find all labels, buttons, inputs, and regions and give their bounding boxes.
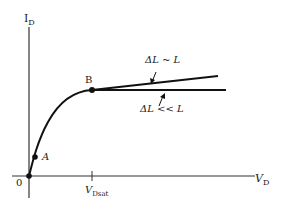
point-a-label: A [41, 151, 49, 162]
point-b [89, 87, 95, 93]
upper-saturation-line [92, 76, 218, 90]
point-a [32, 154, 38, 160]
upper-curve-label: ΔL ~ L [144, 54, 181, 65]
origin-label: 0 [16, 177, 22, 188]
lower-curve-label: ΔL << L [139, 103, 184, 114]
origin-point [26, 173, 32, 179]
iv-characteristic-diagram: ID VD 0 A B VDsat ΔL ~ L ΔL << L [0, 0, 289, 211]
y-axis-label: ID [24, 12, 35, 27]
vdsat-label: VDsat [85, 184, 109, 198]
point-b-label: B [85, 74, 92, 85]
id-curve [29, 90, 92, 176]
x-axis-label: VD [255, 172, 269, 187]
